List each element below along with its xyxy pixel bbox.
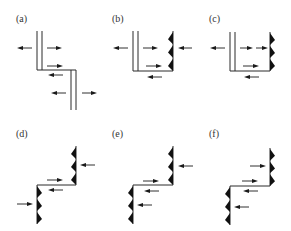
sawtooth-thrust-icon [168, 31, 173, 71]
motion-arrow-icon [47, 64, 63, 68]
fault-diagram-canvas: (a)(b)(c)(d)(e)(f) [0, 0, 291, 231]
sawtooth-thrust-icon [270, 32, 275, 71]
motion-arrow-icon [143, 179, 159, 183]
motion-arrow-icon [17, 202, 33, 206]
motion-arrow-icon [51, 91, 66, 95]
panel-f: (f) [209, 128, 275, 225]
motion-arrow-icon [80, 163, 95, 167]
panel-label: (d) [16, 128, 28, 140]
panel-b: (b) [112, 13, 192, 79]
motion-arrow-icon [243, 64, 259, 68]
motion-arrow-icon [48, 188, 63, 192]
motion-arrow-icon [147, 75, 162, 79]
sawtooth-thrust-icon [37, 185, 42, 224]
motion-arrow-icon [243, 189, 258, 193]
sawtooth-thrust-icon [225, 186, 230, 225]
motion-arrow-icon [234, 205, 249, 209]
sawtooth-thrust-icon [270, 148, 275, 186]
motion-arrow-icon [137, 203, 152, 207]
panel-label: (c) [209, 13, 220, 25]
motion-arrow-icon [178, 164, 193, 168]
panel-c: (c) [209, 13, 275, 79]
panel-label: (f) [209, 128, 219, 140]
sawtooth-thrust-icon [71, 146, 76, 185]
motion-arrow-icon [242, 179, 258, 183]
panel-label: (e) [112, 128, 123, 140]
motion-arrow-icon [113, 46, 128, 50]
motion-arrow-icon [244, 75, 259, 79]
motion-arrow-icon [250, 164, 266, 168]
panel-label: (b) [112, 13, 124, 25]
motion-arrow-icon [47, 46, 62, 50]
motion-arrow-icon [48, 73, 63, 77]
motion-arrow-icon [240, 46, 253, 50]
sawtooth-thrust-icon [168, 146, 173, 185]
panel-d: (d) [16, 128, 95, 224]
motion-arrow-icon [47, 178, 63, 182]
motion-arrow-icon [82, 91, 97, 95]
motion-arrow-icon [17, 46, 32, 50]
motion-arrow-icon [146, 64, 162, 68]
panel-e: (e) [112, 128, 193, 224]
motion-arrow-icon [256, 46, 268, 50]
motion-arrow-icon [210, 46, 225, 50]
panel-a: (a) [16, 13, 97, 110]
motion-arrow-icon [178, 46, 192, 50]
motion-arrow-icon [143, 46, 158, 50]
sawtooth-thrust-icon [128, 185, 133, 224]
motion-arrow-icon [144, 189, 159, 193]
panel-label: (a) [16, 13, 27, 25]
